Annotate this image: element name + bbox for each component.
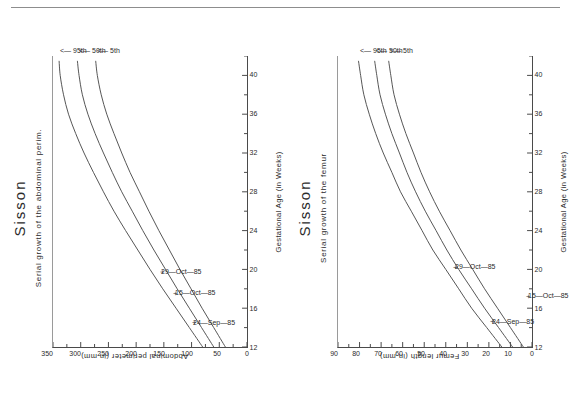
page-title-left: Sisson (12, 22, 28, 394)
x-tick-label: 24 (535, 227, 543, 234)
date-annotation: 29—Oct—85 (161, 268, 201, 275)
chart-rotated-canvas-right: Sisson Serial growth of the femur 121620… (297, 22, 559, 394)
percentile-label: 5th (403, 47, 413, 54)
date-annotation: 29—Oct—85 (455, 263, 495, 270)
chart-abdominal-perimeter: Sisson Serial growth of the abdominal pe… (0, 0, 285, 415)
plot-area-right: 1216202428323640 0102030405060708090 +24… (337, 56, 533, 348)
chart-rotated-canvas-left: Sisson Serial growth of the abdominal pe… (12, 22, 274, 394)
percentile-curve-95th (59, 61, 203, 347)
y-tick-label: 0 (245, 350, 249, 357)
percentile-arrow-icon: <— (60, 47, 71, 54)
plot-curves-left (53, 56, 247, 347)
chart-subtitle-right: Serial growth of the femur (319, 22, 329, 394)
x-tick-label: 28 (535, 188, 543, 195)
chart-titles-left: Sisson Serial growth of the abdominal pe… (12, 22, 44, 394)
x-tick-label: 12 (250, 344, 258, 351)
percentile-curve-5th (389, 61, 524, 347)
x-tick-label: 16 (535, 305, 543, 312)
page-title-right: Sisson (297, 22, 313, 394)
percentile-callout-5th: <— 5th (95, 47, 120, 54)
percentile-arrow-icon: <— (390, 47, 401, 54)
x-tick-label: 20 (535, 266, 543, 273)
x-tick-label: 40 (250, 71, 258, 78)
percentile-arrow-icon: <— (376, 47, 387, 54)
date-annotation: 15—Oct—85 (175, 289, 215, 296)
x-tick-label: 40 (535, 71, 543, 78)
percentile-curve-5th (96, 61, 226, 347)
x-tick-label: 12 (535, 344, 543, 351)
percentile-arrow-icon: <— (79, 47, 90, 54)
plot-curves-right (338, 56, 532, 347)
x-tick-label: 16 (250, 305, 258, 312)
x-tick-label: 36 (535, 110, 543, 117)
percentile-label: 5th (110, 47, 120, 54)
y-axis-label-left: Abdominal perimeter (in mm) (37, 352, 233, 361)
figure-page: Sisson Serial growth of the abdominal pe… (0, 0, 570, 415)
percentile-callout-5th: <— 5th (388, 47, 413, 54)
date-annotation: 24—Sep—85 (492, 318, 534, 325)
y-axis-label-right: Femur length (in mm) (322, 352, 518, 361)
x-tick-label: 20 (250, 266, 258, 273)
x-tick-label: 28 (250, 188, 258, 195)
plot-area-left: 1216202428323640 050100150200250300350 +… (52, 56, 248, 348)
date-annotation: 24—Sep—85 (193, 319, 235, 326)
x-axis-label-right: Gestational Age (in Weeks) (559, 56, 568, 348)
percentile-arrow-icon: <— (97, 47, 108, 54)
y-tick-label: 0 (530, 350, 534, 357)
percentile-curve-50th (375, 61, 513, 347)
x-tick-label: 36 (250, 110, 258, 117)
chart-femur-length: Sisson Serial growth of the femur 121620… (285, 0, 570, 415)
chart-titles-right: Sisson Serial growth of the femur (297, 22, 329, 394)
percentile-arrow-icon: <— (360, 47, 371, 54)
chart-subtitle-left: Serial growth of the abdominal perim. (34, 22, 44, 394)
percentile-curve-95th (358, 61, 501, 347)
x-tick-label: 24 (250, 227, 258, 234)
x-axis-label-left: Gestational Age (in Weeks) (274, 56, 283, 348)
x-tick-label: 32 (250, 149, 258, 156)
x-tick-label: 32 (535, 149, 543, 156)
